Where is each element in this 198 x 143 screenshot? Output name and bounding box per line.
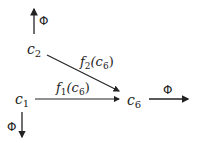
node-c6: c6 bbox=[127, 92, 141, 110]
diagram-canvas: Φ c2 f2(c6) c1 f1(c6) c6 Φ Φ bbox=[0, 0, 198, 143]
edge-label-f1: f1(c6) bbox=[55, 80, 90, 97]
edge-label-f2: f2(c6) bbox=[79, 54, 114, 71]
node-c1: c1 bbox=[15, 91, 29, 109]
node-c2: c2 bbox=[27, 41, 41, 59]
diagram-svg: Φ c2 f2(c6) c1 f1(c6) c6 Φ Φ bbox=[0, 0, 198, 143]
phi-label-right: Φ bbox=[163, 83, 172, 97]
phi-label-up: Φ bbox=[39, 14, 48, 28]
phi-label-down: Φ bbox=[7, 120, 16, 134]
